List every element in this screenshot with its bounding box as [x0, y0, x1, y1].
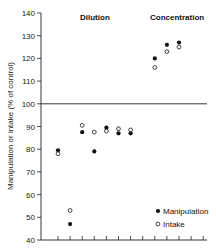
manipulation-point: [165, 43, 169, 47]
manipulation-point: [68, 222, 72, 226]
legend-intake-marker-icon: [156, 222, 160, 226]
manipulation-point: [153, 56, 157, 60]
y-tick-label: 90: [26, 123, 35, 132]
manipulation-point: [116, 131, 120, 135]
y-axis-title: Manipulation or intake (% of control): [6, 62, 15, 190]
legend-intake-label: Intake: [163, 220, 185, 229]
section-label-concentration: Concentration: [150, 13, 204, 22]
legend: Manipulation Intake: [156, 207, 208, 229]
y-tick-label: 120: [22, 54, 36, 63]
scatter-chart: 405060708090100110120130140 Manipulation…: [0, 0, 216, 251]
y-tick-label: 110: [22, 77, 35, 86]
intake-point: [80, 123, 84, 127]
intake-point: [105, 129, 109, 133]
intake-point: [129, 128, 133, 132]
intake-point: [56, 152, 60, 156]
y-axis: 405060708090100110120130140: [22, 9, 41, 245]
intake-point: [117, 127, 121, 131]
manipulation-point: [92, 149, 96, 153]
y-tick-label: 140: [22, 9, 36, 18]
intake-point: [153, 66, 157, 70]
intake-point: [165, 50, 169, 54]
y-tick-label: 80: [26, 145, 35, 154]
y-tick-label: 50: [26, 213, 35, 222]
intake-point: [68, 209, 72, 213]
legend-manipulation-marker-icon: [156, 209, 160, 213]
x-axis: [41, 236, 207, 240]
manipulation-point: [177, 40, 181, 44]
intake-point: [92, 130, 96, 134]
section-label-dilution: Dilution: [80, 13, 110, 22]
y-tick-label: 130: [22, 32, 36, 41]
y-tick-label: 100: [22, 100, 36, 109]
y-tick-label: 40: [26, 236, 35, 245]
intake-point: [177, 45, 181, 49]
y-tick-label: 60: [26, 191, 35, 200]
manipulation-point: [80, 130, 84, 134]
y-tick-label: 70: [26, 168, 35, 177]
data-points: [56, 40, 181, 226]
legend-manipulation-label: Manipulation: [163, 207, 208, 216]
